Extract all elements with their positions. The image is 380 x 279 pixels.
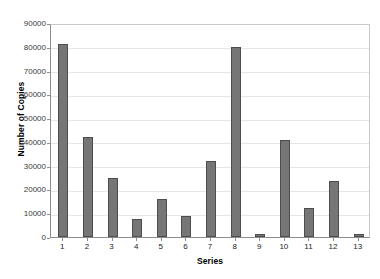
bar xyxy=(255,234,265,237)
x-axis-tick-label: 1 xyxy=(50,242,75,252)
y-axis-tick-label: 10000 xyxy=(2,210,46,218)
y-axis-tick-label: 40000 xyxy=(2,139,46,147)
x-axis-tick-mark xyxy=(62,238,63,241)
y-axis-tick-label: 70000 xyxy=(2,68,46,76)
bar-chart-figure: Number of Copies 01000020000300004000050… xyxy=(0,0,380,279)
y-axis-tick-label: 60000 xyxy=(2,91,46,99)
y-axis-tick-label: 50000 xyxy=(2,115,46,123)
bar xyxy=(132,219,142,237)
x-axis-tick-mark xyxy=(235,238,236,241)
y-axis-tick-mark xyxy=(47,95,50,96)
y-axis-tick-label: 30000 xyxy=(2,163,46,171)
bar xyxy=(58,44,68,237)
x-axis-tick-label: 9 xyxy=(247,242,272,252)
y-axis-tick-mark xyxy=(47,48,50,49)
x-axis-tick-label: 8 xyxy=(222,242,247,252)
bar xyxy=(280,140,290,237)
x-axis-tick-mark xyxy=(185,238,186,241)
x-axis-tick-mark xyxy=(87,238,88,241)
x-axis-tick-label: 11 xyxy=(296,242,321,252)
bar xyxy=(304,208,314,237)
y-axis-tick-mark xyxy=(47,119,50,120)
y-axis-tick-label: 80000 xyxy=(2,44,46,52)
x-axis-tick-label: 7 xyxy=(198,242,223,252)
y-axis-tick-mark xyxy=(47,143,50,144)
bar xyxy=(231,47,241,237)
x-axis-tick-mark xyxy=(136,238,137,241)
y-axis-tick-mark xyxy=(47,190,50,191)
x-axis-tick-mark xyxy=(259,238,260,241)
bar xyxy=(181,216,191,237)
bar xyxy=(157,199,167,237)
x-axis-tick-mark xyxy=(333,238,334,241)
x-axis-tick-labels: 12345678910111213 xyxy=(50,242,370,256)
x-axis-tick-label: 3 xyxy=(99,242,124,252)
y-axis-tick-mark xyxy=(47,214,50,215)
x-axis-tick-mark xyxy=(112,238,113,241)
bar xyxy=(83,137,93,237)
x-axis-tick-label: 12 xyxy=(321,242,346,252)
x-axis-tick-label: 6 xyxy=(173,242,198,252)
y-axis-tick-labels: 0100002000030000400005000060000700008000… xyxy=(0,0,46,279)
bar xyxy=(206,161,216,237)
bar xyxy=(354,234,364,237)
y-axis-tick-label: 20000 xyxy=(2,186,46,194)
y-axis-tick-label: 90000 xyxy=(2,20,46,28)
x-axis-tick-label: 13 xyxy=(345,242,370,252)
x-axis-tick-label: 10 xyxy=(272,242,297,252)
y-axis-tick-mark xyxy=(47,238,50,239)
x-axis-tick-mark xyxy=(284,238,285,241)
x-axis-tick-mark xyxy=(210,238,211,241)
y-axis-tick-mark xyxy=(47,167,50,168)
plot-area xyxy=(50,24,370,238)
bars-group xyxy=(51,25,369,237)
x-axis-tick-label: 4 xyxy=(124,242,149,252)
y-axis-tick-label: 0 xyxy=(2,234,46,242)
x-axis-title: Series xyxy=(50,256,370,266)
y-axis-tick-mark xyxy=(47,24,50,25)
x-axis-tick-mark xyxy=(308,238,309,241)
bar xyxy=(329,181,339,237)
x-axis-tick-mark xyxy=(358,238,359,241)
x-axis-tick-label: 2 xyxy=(75,242,100,252)
x-axis-tick-mark xyxy=(161,238,162,241)
x-axis-tick-label: 5 xyxy=(148,242,173,252)
y-axis-tick-mark xyxy=(47,72,50,73)
bar xyxy=(108,178,118,237)
